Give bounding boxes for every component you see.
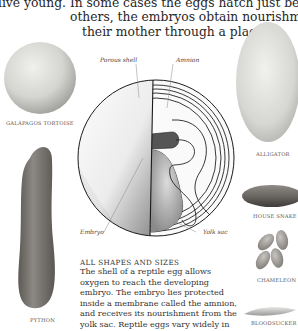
alligator-egg — [236, 22, 298, 142]
chameleon-label: Chameleon — [257, 277, 296, 283]
alligator-label: Alligator — [256, 151, 290, 157]
python-label: Python — [30, 317, 55, 323]
bloodsucker-egg — [244, 307, 296, 316]
embryo-label: Embryo — [80, 228, 104, 235]
porous-shell-label: Porous shell — [100, 56, 137, 63]
galapagos-tortoise-egg — [4, 42, 76, 114]
caption-body: The shell of a reptile egg allows oxygen… — [80, 266, 240, 331]
python-egg — [18, 147, 55, 308]
bloodsucker-label: Bloodsucker — [251, 320, 297, 326]
house-snake-label: House snake — [253, 213, 297, 219]
yolk-sac-label: Yolk sac — [203, 228, 228, 235]
amnion-label: Amnion — [176, 56, 199, 63]
chameleon-eggs — [253, 229, 290, 272]
egg-cross-section-diagram — [70, 64, 250, 250]
galapagos-tortoise-label: Galápagos tortoise — [6, 120, 74, 126]
house-snake-egg — [242, 185, 298, 207]
